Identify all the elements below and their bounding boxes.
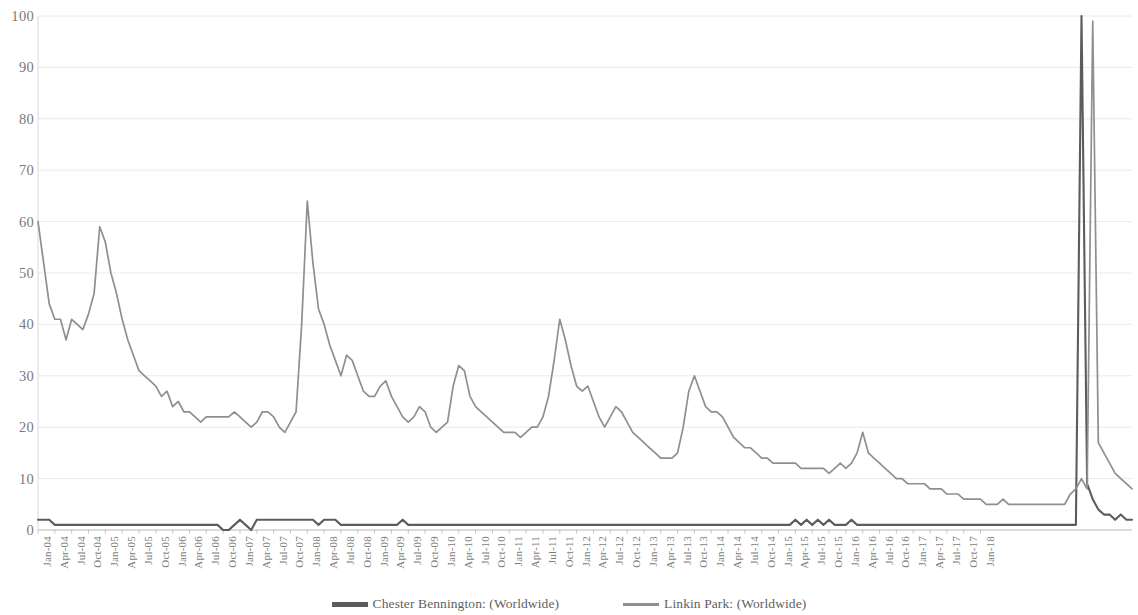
legend-swatch-chester-bennington — [332, 602, 368, 607]
x-tick-label: Apr-17 — [934, 536, 945, 569]
x-tick-label: Oct-05 — [160, 536, 171, 568]
x-tick-label: Jan-05 — [109, 536, 120, 567]
legend-swatch-linkin-park — [623, 603, 659, 606]
gridlines — [38, 16, 1132, 530]
series-line-linkin-park — [38, 21, 1132, 504]
x-tick-label: Jan-16 — [850, 536, 861, 567]
x-tick-label: Oct-07 — [294, 536, 305, 568]
x-tick-label: Oct-13 — [698, 536, 709, 568]
x-tick-label: Oct-04 — [92, 536, 103, 568]
x-tick-label: Jan-14 — [715, 536, 726, 567]
x-tick-label: Apr-10 — [463, 536, 474, 569]
x-tick-label: Jan-12 — [581, 536, 592, 567]
x-tick-label: Jan-07 — [244, 536, 255, 567]
x-tick-label: Oct-17 — [968, 536, 979, 568]
x-tick-label: Jan-10 — [446, 536, 457, 567]
x-tick-label: Apr-14 — [732, 536, 743, 569]
x-tick-label: Oct-08 — [362, 536, 373, 568]
chart-canvas — [0, 0, 1138, 615]
x-tick-label: Jul-08 — [345, 536, 356, 565]
x-tick-label: Jul-09 — [412, 536, 423, 565]
x-tick-label: Jul-13 — [682, 536, 693, 565]
chart-legend: Chester Bennington: (Worldwide) Linkin P… — [0, 594, 1138, 614]
legend-label-linkin-park: Linkin Park: (Worldwide) — [664, 596, 806, 612]
x-tick-label: Apr-12 — [597, 536, 608, 569]
x-tick-label: Jul-12 — [614, 536, 625, 565]
x-tick-label: Oct-09 — [429, 536, 440, 568]
x-tick-label: Apr-16 — [867, 536, 878, 569]
x-tick-label: Oct-10 — [496, 536, 507, 568]
x-tick-label: Jul-04 — [76, 536, 87, 565]
axis-lines — [38, 16, 981, 534]
x-tick-label: Oct-15 — [833, 536, 844, 568]
x-tick-label: Jan-11 — [513, 536, 524, 566]
trends-line-chart: 0102030405060708090100 Jan-04Apr-04Jul-0… — [0, 0, 1138, 615]
x-tick-label: Jan-17 — [917, 536, 928, 567]
x-tick-label: Apr-05 — [126, 536, 137, 569]
x-tick-label: Oct-11 — [564, 536, 575, 567]
x-tick-label: Jan-08 — [311, 536, 322, 567]
x-tick-label: Jul-10 — [480, 536, 491, 565]
x-tick-label: Oct-12 — [631, 536, 642, 568]
x-tick-label: Jul-16 — [884, 536, 895, 565]
x-tick-label: Apr-09 — [395, 536, 406, 569]
x-tick-label: Jul-15 — [816, 536, 827, 565]
legend-label-chester-bennington: Chester Bennington: (Worldwide) — [373, 596, 559, 612]
x-tick-label: Apr-07 — [261, 536, 272, 569]
x-tick-label: Jan-06 — [177, 536, 188, 567]
x-tick-label: Oct-16 — [900, 536, 911, 568]
x-tick-label: Apr-04 — [59, 536, 70, 569]
x-tick-label: Jul-05 — [143, 536, 154, 565]
x-tick-label: Jul-07 — [278, 536, 289, 565]
x-tick-label: Jan-15 — [783, 536, 794, 567]
legend-item-linkin-park[interactable]: Linkin Park: (Worldwide) — [623, 596, 806, 612]
x-tick-label: Apr-15 — [799, 536, 810, 569]
x-tick-label: Oct-14 — [766, 536, 777, 568]
x-axis-labels: Jan-04Apr-04Jul-04Oct-04Jan-05Apr-05Jul-… — [38, 534, 1132, 590]
x-tick-label: Apr-11 — [530, 536, 541, 568]
x-tick-label: Jul-06 — [210, 536, 221, 565]
x-tick-label: Jul-11 — [547, 536, 558, 564]
x-tick-label: Jul-17 — [951, 536, 962, 565]
x-tick-label: Apr-06 — [193, 536, 204, 569]
x-tick-label: Jul-14 — [749, 536, 760, 565]
x-tick-label: Oct-06 — [227, 536, 238, 568]
x-tick-label: Jan-13 — [648, 536, 659, 567]
x-tick-label: Jan-18 — [985, 536, 996, 567]
x-tick-label: Apr-13 — [665, 536, 676, 569]
legend-item-chester-bennington[interactable]: Chester Bennington: (Worldwide) — [332, 596, 559, 612]
x-tick-label: Apr-08 — [328, 536, 339, 569]
x-tick-label: Jan-04 — [42, 536, 53, 567]
x-tick-label: Jan-09 — [379, 536, 390, 567]
